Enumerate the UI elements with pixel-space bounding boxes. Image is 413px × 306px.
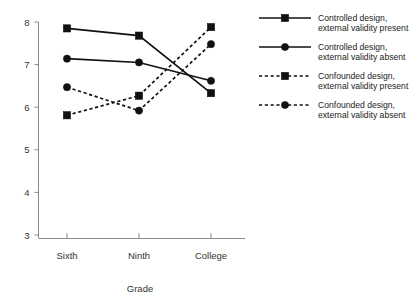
series xyxy=(63,55,214,84)
y-axis-ticks xyxy=(35,22,39,235)
legend-label-line1: Confounded design, xyxy=(318,100,395,110)
y-tick-label: 6 xyxy=(24,102,29,113)
y-tick-label: 7 xyxy=(24,59,29,70)
x-tick-label: College xyxy=(195,250,227,261)
legend-item: Controlled design,external validity pres… xyxy=(259,13,409,33)
x-tick-label: Sixth xyxy=(56,250,77,261)
series-group xyxy=(63,24,214,119)
data-point-circle xyxy=(135,107,142,114)
data-point-circle xyxy=(135,59,142,66)
legend-label-line1: Controlled design, xyxy=(318,13,387,23)
data-point-square xyxy=(207,24,214,31)
x-axis-tick-labels: SixthNinthCollege xyxy=(56,250,227,261)
data-point-circle xyxy=(281,101,288,108)
legend-item: Confounded design,external validity pres… xyxy=(259,71,409,91)
data-point-circle xyxy=(281,43,288,50)
legend-label-line1: Confounded design, xyxy=(318,71,395,81)
data-point-square xyxy=(135,92,142,99)
chart-legend: Controlled design,external validity pres… xyxy=(259,13,409,120)
y-tick-label: 4 xyxy=(24,187,29,198)
data-point-circle xyxy=(63,84,70,91)
y-tick-label: 5 xyxy=(24,144,29,155)
series-line xyxy=(67,44,211,110)
legend-label-line2: external validity absent xyxy=(318,52,406,62)
series-line xyxy=(67,27,211,115)
data-point-circle xyxy=(63,55,70,62)
x-tick-label: Ninth xyxy=(128,250,150,261)
x-axis: SixthNinthCollege Grade xyxy=(39,233,246,294)
legend-item: Controlled design,external validity abse… xyxy=(259,42,406,62)
y-tick-label: 8 xyxy=(24,17,29,28)
data-point-square xyxy=(281,14,288,21)
data-point-square xyxy=(281,72,288,79)
legend-item: Confounded design,external validity abse… xyxy=(259,100,406,120)
y-axis: 345678 xyxy=(24,17,38,241)
y-axis-tick-labels: 345678 xyxy=(24,17,29,241)
data-point-square xyxy=(207,90,214,97)
data-point-circle xyxy=(207,41,214,48)
legend-label-line1: Controlled design, xyxy=(318,42,387,52)
data-point-square xyxy=(135,32,142,39)
chart-figure: 345678 SixthNinthCollege Grade Controlle… xyxy=(0,0,413,306)
legend-label-line2: external validity present xyxy=(318,23,409,33)
legend-label-line2: external validity absent xyxy=(318,110,406,120)
data-point-square xyxy=(63,112,70,119)
y-tick-label: 3 xyxy=(24,230,29,241)
data-point-square xyxy=(63,25,70,32)
legend-label-line2: external validity present xyxy=(318,81,409,91)
x-axis-title: Grade xyxy=(127,283,153,294)
x-axis-ticks xyxy=(67,233,211,238)
data-point-circle xyxy=(207,77,214,84)
line-chart: 345678 SixthNinthCollege Grade Controlle… xyxy=(0,0,413,306)
